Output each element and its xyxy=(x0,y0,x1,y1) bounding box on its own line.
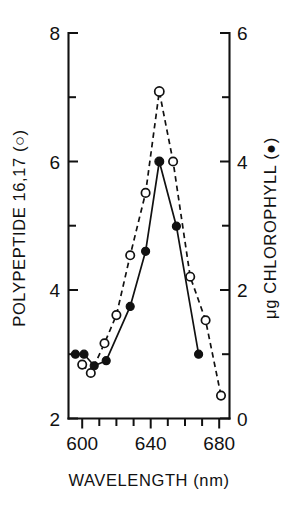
polypeptide-point xyxy=(126,251,134,259)
polypeptide-point xyxy=(78,360,86,368)
right-ticklabel-2: 2 xyxy=(237,280,248,301)
polypeptide-point xyxy=(201,316,209,324)
chlorophyll-point xyxy=(142,247,150,255)
x-ticklabel-680: 680 xyxy=(203,433,235,454)
chlorophyll-point xyxy=(71,350,79,358)
chlorophyll-point xyxy=(126,302,134,310)
x-ticklabel-600: 600 xyxy=(66,433,98,454)
polypeptide-point xyxy=(186,273,194,281)
chlorophyll-point xyxy=(172,222,180,230)
right-ticklabel-0: 0 xyxy=(237,409,248,430)
right-ticklabel-6: 6 xyxy=(237,23,248,44)
chlorophyll-peak-point xyxy=(155,157,164,166)
right-axis-title: μg CHLOROPHYLL (●) xyxy=(261,137,279,319)
left-ticklabel-8: 8 xyxy=(49,23,60,44)
polypeptide-point xyxy=(100,339,108,347)
left-axis-title: POLYPEPTIDE 16,17 (○) xyxy=(10,129,28,326)
polypeptide-point xyxy=(87,369,95,377)
polypeptide-point xyxy=(141,189,149,197)
chlorophyll-point xyxy=(80,350,88,358)
chlorophyll-point xyxy=(195,350,203,358)
left-ticklabel-2: 2 xyxy=(49,409,60,430)
polypeptide-point xyxy=(169,157,177,165)
chlorophyll-point xyxy=(102,357,110,365)
polypeptide-point xyxy=(217,391,225,399)
chart-figure: 8 6 4 2 6 4 2 0 xyxy=(0,0,298,517)
left-ticklabel-6: 6 xyxy=(49,152,60,173)
right-ticklabel-4: 4 xyxy=(237,152,248,173)
x-axis-title: WAVELENGTH (nm) xyxy=(68,471,229,489)
x-ticklabel-640: 640 xyxy=(135,433,167,454)
chart-svg: 8 6 4 2 6 4 2 0 xyxy=(0,0,298,517)
polypeptide-point xyxy=(112,311,120,319)
left-ticklabel-4: 4 xyxy=(49,280,60,301)
polypeptide-peak-point xyxy=(155,87,164,96)
